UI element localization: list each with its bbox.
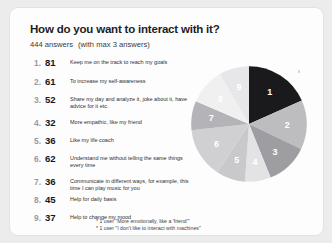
- footnote: * 1 user "More emotionally, like a 'frie…: [96, 218, 246, 225]
- answer-rank: 7.: [28, 177, 41, 187]
- footnote-list: * 1 user "More emotionally, like a 'frie…: [96, 218, 246, 232]
- answer-label: Understand me without telling the same t…: [70, 155, 192, 169]
- pie-slice-label: 3: [273, 147, 278, 157]
- pie-slice-label: 7: [209, 113, 214, 123]
- answer-count: 32: [45, 117, 56, 128]
- answer-label: Help for daily basis: [70, 196, 192, 203]
- answer-row: 8.45Help for daily basis: [28, 195, 193, 211]
- pie-slice-label: 8: [218, 94, 223, 104]
- answer-rank: 9.: [28, 213, 41, 223]
- answer-label: Keep me on the track to reach my goals: [70, 59, 192, 66]
- answer-row: 4.32More empathic, like my friend: [28, 118, 193, 134]
- answer-rank: 3.: [28, 95, 41, 105]
- answer-label: Share my day and analyze it, joke about …: [70, 96, 192, 110]
- footnote: * 1 user "I don't like to interact with …: [96, 225, 246, 232]
- answer-row: 1.81Keep me on the track to reach my goa…: [28, 58, 193, 74]
- answer-row: 5.36Like my life coach: [28, 136, 193, 152]
- answer-label: Like my life coach: [70, 137, 192, 144]
- answer-count: 37: [45, 212, 56, 223]
- answer-rank: 1.: [28, 58, 41, 68]
- pie-slice-label: 2: [285, 120, 290, 130]
- pie-slice-label: 4: [252, 157, 257, 167]
- answer-count: 52: [45, 94, 56, 105]
- answer-count: 62: [45, 153, 56, 164]
- answer-rank: 8.: [28, 195, 41, 205]
- pie-slice-label: 9: [237, 82, 242, 92]
- answer-row: 3.52Share my day and analyze it, joke ab…: [28, 95, 193, 111]
- pie-chart-svg: 123456789: [190, 65, 308, 183]
- answer-rank: 5.: [28, 136, 41, 146]
- answer-row: 7.36Communicate in different ways, for e…: [28, 177, 193, 193]
- answer-count: 81: [45, 57, 56, 68]
- page-title: How do you want to interact with it?: [30, 23, 220, 35]
- answers-count-text: 444 answers: [30, 40, 73, 49]
- survey-result-card: How do you want to interact with it? 444…: [9, 7, 324, 236]
- answer-rank: 6.: [28, 154, 41, 164]
- pie-slice-label: 6: [214, 139, 219, 149]
- pie-chart: 123456789: [190, 65, 315, 190]
- answer-label: More empathic, like my friend: [70, 119, 192, 126]
- pie-slice-label: 5: [234, 155, 239, 165]
- answer-label: To increase my self-awareness: [70, 78, 192, 85]
- answer-row: 2.61To increase my self-awareness: [28, 77, 193, 93]
- answer-row: 6.62Understand me without telling the sa…: [28, 154, 193, 170]
- stray-mark-artifact: [298, 70, 300, 73]
- pie-slice-label: 1: [267, 87, 272, 97]
- answer-rank: 4.: [28, 118, 41, 128]
- max-answers-note: (with max 3 answers): [78, 40, 150, 49]
- answers-summary: 444 answers(with max 3 answers): [30, 40, 150, 49]
- answer-count: 45: [45, 194, 56, 205]
- answer-count: 36: [45, 176, 56, 187]
- answer-rank: 2.: [28, 77, 41, 87]
- answer-count: 61: [45, 76, 56, 87]
- answer-count: 36: [45, 135, 56, 146]
- answer-label: Communicate in different ways, for examp…: [70, 178, 192, 192]
